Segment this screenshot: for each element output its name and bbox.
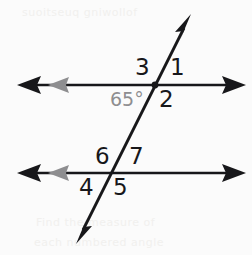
transversal-bottom-arrowhead-icon	[76, 218, 92, 244]
angle-label-7: 7	[129, 145, 144, 168]
diagram-canvas	[0, 0, 252, 255]
transversal-top-arrowhead-icon	[175, 14, 191, 40]
geometry-figure: suoitseuq gniwollof Find the measure of …	[0, 0, 252, 255]
transversal-segment	[83, 28, 184, 230]
transversal-line	[76, 14, 191, 244]
angle-measure-65: 65°	[110, 90, 144, 109]
angle-label-5: 5	[113, 176, 128, 199]
upper-left-parallel-mark-icon	[48, 77, 69, 93]
upper-intersection-point	[152, 82, 159, 89]
angle-label-1: 1	[170, 56, 185, 79]
angle-label-6: 6	[95, 145, 110, 168]
angle-label-4: 4	[79, 176, 94, 199]
angle-label-2: 2	[159, 88, 174, 111]
lower-left-parallel-mark-icon	[48, 165, 69, 181]
angle-label-3: 3	[135, 56, 150, 79]
